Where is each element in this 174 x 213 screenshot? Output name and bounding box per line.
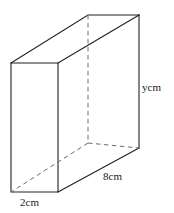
height-dimension-label: ycm — [142, 82, 161, 93]
top-front-right-edge — [58, 15, 139, 63]
hidden-bottom-left-edge — [11, 143, 88, 192]
bottom-front-right-edge — [58, 148, 139, 192]
front-face-edges — [11, 63, 58, 192]
width-dimension-label: 2cm — [20, 197, 39, 208]
top-face-outline — [11, 15, 139, 63]
cuboid-drawing — [0, 0, 174, 213]
hidden-edges — [11, 15, 139, 192]
front-face-outline — [11, 63, 58, 192]
right-face-edges — [58, 15, 139, 192]
length-dimension-label: 8cm — [103, 171, 122, 182]
top-face-edges — [11, 15, 139, 63]
cuboid-figure: 2cm 8cm ycm — [0, 0, 174, 213]
hidden-back-bottom-edge — [88, 143, 139, 148]
